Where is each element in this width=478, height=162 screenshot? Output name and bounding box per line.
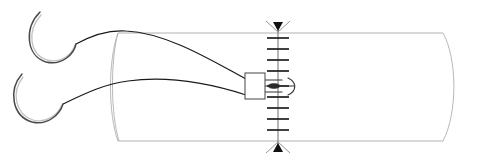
suture-thread-group bbox=[63, 31, 246, 104]
curved-needle-upper-highlight bbox=[32, 15, 75, 61]
curved-needle-lower bbox=[14, 74, 63, 123]
suture-thread-lower bbox=[63, 79, 246, 104]
curved-needle-lower-highlight bbox=[16, 77, 62, 121]
suture-thread-upper bbox=[76, 31, 246, 79]
tube-right-cap bbox=[443, 33, 454, 141]
surgical-suture-diagram bbox=[0, 0, 478, 162]
suture-bead-icon bbox=[268, 83, 280, 88]
needle-group bbox=[14, 12, 76, 123]
seam-arrowhead-top-icon bbox=[273, 22, 283, 31]
figure-canvas bbox=[0, 0, 478, 162]
clip-body-rect bbox=[245, 73, 265, 99]
seam-arrowhead-bottom-icon bbox=[273, 143, 283, 152]
suture-anchor-clip bbox=[245, 73, 295, 99]
curved-needle-upper bbox=[29, 12, 76, 63]
